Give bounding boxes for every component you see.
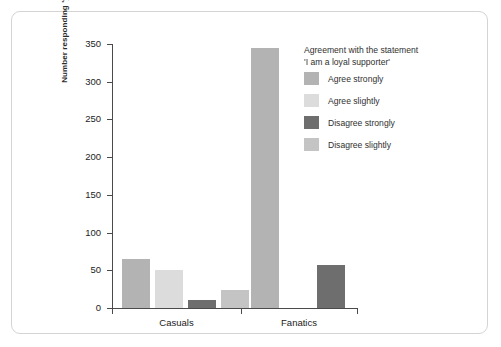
legend-items: Agree stronglyAgree slightlyDisagree str… bbox=[304, 69, 484, 155]
y-axis-line bbox=[112, 44, 113, 308]
x-tick-mark bbox=[357, 308, 358, 314]
legend-title-line-2: 'I am a loyal supporter' bbox=[304, 57, 484, 67]
y-tick-label: 200 bbox=[67, 151, 101, 162]
legend-swatch bbox=[304, 72, 319, 85]
legend-item-label: Disagree slightly bbox=[328, 140, 391, 150]
legend-swatch bbox=[304, 116, 319, 129]
y-tick-label: 100 bbox=[67, 227, 101, 238]
legend-swatch bbox=[304, 94, 319, 107]
bar bbox=[317, 265, 345, 308]
bar bbox=[155, 270, 183, 308]
y-axis-title: Number responding 'yes' bbox=[60, 0, 69, 124]
y-tick-label: 250 bbox=[67, 113, 101, 124]
bar bbox=[188, 300, 216, 308]
y-tick-label: 150 bbox=[67, 189, 101, 200]
legend-item-label: Agree strongly bbox=[328, 74, 383, 84]
legend-item: Disagree slightly bbox=[304, 135, 484, 155]
plot-area: Number responding 'yes' 0501001502002503… bbox=[12, 12, 489, 335]
legend-item: Agree slightly bbox=[304, 91, 484, 111]
legend-item: Agree strongly bbox=[304, 69, 484, 89]
bar bbox=[251, 48, 279, 308]
legend-item: Disagree strongly bbox=[304, 113, 484, 133]
x-tick-mark bbox=[112, 308, 113, 314]
y-tick-label: 300 bbox=[67, 76, 101, 87]
bar bbox=[122, 259, 150, 308]
y-axis-title-text: Number responding 'yes' bbox=[60, 0, 69, 124]
x-axis-line bbox=[112, 308, 357, 309]
y-tick-label: 350 bbox=[67, 38, 101, 49]
y-tick-label: 50 bbox=[67, 264, 101, 275]
x-category-label: Casuals bbox=[112, 317, 241, 328]
legend-title-line-1: Agreement with the statement bbox=[304, 45, 484, 55]
bar bbox=[221, 290, 249, 308]
chart-frame: Number responding 'yes' 0501001502002503… bbox=[11, 11, 488, 334]
x-tick-mark bbox=[241, 308, 242, 314]
legend-swatch bbox=[304, 138, 319, 151]
legend-item-label: Disagree strongly bbox=[328, 118, 395, 128]
legend-item-label: Agree slightly bbox=[328, 96, 380, 106]
y-tick-label: 0 bbox=[67, 302, 101, 313]
x-category-label: Fanatics bbox=[241, 317, 357, 328]
legend: Agreement with the statement 'I am a loy… bbox=[304, 45, 484, 155]
